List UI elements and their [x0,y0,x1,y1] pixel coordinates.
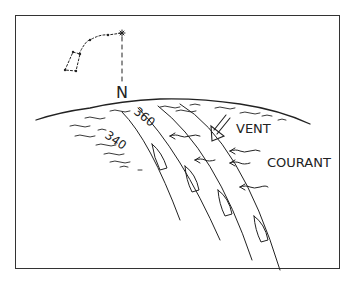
north-star-icon [119,30,125,36]
wind-arrow-icon [211,115,230,141]
current-label: COURANT [267,155,331,170]
navigation-diagram: N VENT COURANT 340 360 [0,0,353,283]
heading-340-label: 340 [102,128,129,153]
north-label: N [116,83,128,102]
wind-label: VENT [236,121,271,136]
